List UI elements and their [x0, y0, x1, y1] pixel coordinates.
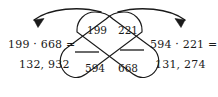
math-diagram-figure: 199 221 594 668 199 · 668 = 132, 932 594…	[0, 0, 218, 97]
capsule-number-bottom-right: 668	[115, 63, 141, 74]
left-equation-expression: 199 · 668 =	[8, 39, 75, 50]
capsule-number-bottom-left: 594	[82, 63, 108, 74]
arrow-arc-left-head-icon	[34, 19, 44, 28]
capsule-number-top-left: 199	[84, 25, 110, 36]
right-equation-result: 131, 274	[155, 59, 206, 70]
capsule-number-top-right: 221	[115, 25, 141, 36]
left-equation-result: 132, 932	[19, 59, 70, 70]
right-equation-expression: 594 · 221 =	[150, 39, 217, 50]
arrow-arc-right-head-icon	[175, 19, 185, 28]
